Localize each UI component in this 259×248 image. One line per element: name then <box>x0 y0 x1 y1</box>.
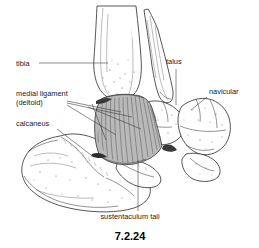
navicular-bone <box>178 98 230 154</box>
label-medial-ligament-deltoid: (deltoid) <box>16 98 43 107</box>
label-sustentaculum-tali: sustentaculum tali <box>100 212 160 221</box>
talus-shadow <box>162 145 177 152</box>
cuboid-fragment <box>182 153 220 181</box>
figure-number: 7.2.24 <box>115 230 146 242</box>
label-talus: talus <box>166 57 182 66</box>
tibia-shaft <box>94 6 142 101</box>
label-tibia: tibia <box>16 59 30 68</box>
anatomical-figure: tibia medial ligament (deltoid) calcaneu… <box>0 0 259 248</box>
label-navicular: navicular <box>209 87 239 96</box>
label-calcaneus: calcaneus <box>16 119 50 128</box>
fibula <box>144 9 173 103</box>
label-medial-ligament: medial ligament <box>16 89 68 98</box>
